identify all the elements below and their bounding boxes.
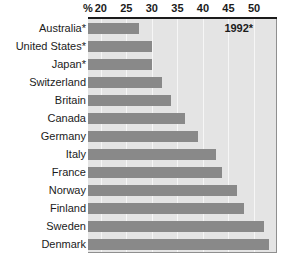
bar [88, 221, 264, 232]
category-axis-labels: Australia*United States*Japan*Switzerlan… [0, 19, 86, 253]
bar [88, 95, 171, 106]
bar [88, 167, 222, 178]
gridline [228, 19, 229, 252]
bar [88, 113, 185, 124]
gridline [203, 19, 204, 252]
bar [88, 203, 244, 214]
category-label: Norway [0, 184, 86, 196]
category-label: Sweden [0, 220, 86, 232]
category-label: Canada [0, 112, 86, 124]
bar [88, 41, 152, 52]
bar [88, 239, 269, 250]
category-label: Britain [0, 94, 86, 106]
bar [88, 59, 152, 70]
bar [88, 185, 237, 196]
bar [88, 77, 162, 88]
category-label: Australia* [0, 22, 86, 34]
bar [88, 149, 216, 160]
plot-area: 1992* [88, 19, 277, 253]
category-label: France [0, 166, 86, 178]
category-label: Finland [0, 202, 86, 214]
gridline [254, 19, 255, 252]
category-label: United States* [0, 40, 86, 52]
bar [88, 23, 139, 34]
category-label: Japan* [0, 58, 86, 70]
category-label: Switzerland [0, 76, 86, 88]
x-tick-label: 50 [234, 2, 274, 14]
bar-chart: % 20253035404550 Australia*United States… [0, 0, 282, 257]
year-annotation: 1992* [224, 22, 253, 34]
category-label: Italy [0, 148, 86, 160]
category-label: Denmark [0, 238, 86, 250]
category-label: Germany [0, 130, 86, 142]
bar [88, 131, 198, 142]
